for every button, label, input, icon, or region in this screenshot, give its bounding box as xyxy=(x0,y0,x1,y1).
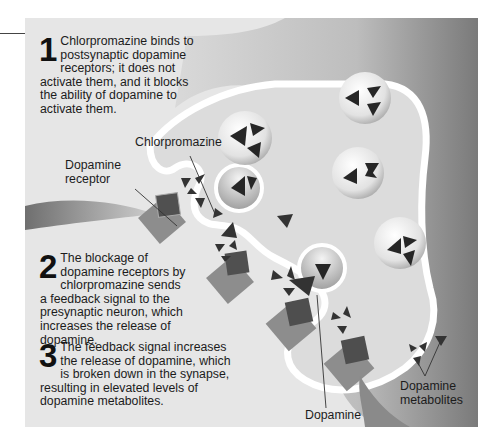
step-1: 1 Chlorpromazine binds to postsynaptic d… xyxy=(40,35,205,117)
diagram-panel: 1 Chlorpromazine binds to postsynaptic d… xyxy=(25,18,478,427)
label-metabolites-line1: Dopamine xyxy=(400,380,463,394)
step-3-number: 3 xyxy=(39,343,57,369)
label-dopamine: Dopamine xyxy=(305,409,361,423)
step-2: 2 The blockage of dopamine receptors by … xyxy=(40,252,190,347)
label-dopamine-receptor-line2: receptor xyxy=(65,173,121,187)
label-chlorpromazine: Chlorpromazine xyxy=(135,136,222,150)
label-dopamine-receptor: Dopamine receptor xyxy=(65,159,121,186)
step-2-text: The blockage of dopamine receptors by ch… xyxy=(40,251,185,347)
step-2-number: 2 xyxy=(39,254,57,280)
label-dopamine-metabolites: Dopamine metabolites xyxy=(400,380,463,407)
label-metabolites-line2: metabolites xyxy=(400,394,463,408)
step-1-number: 1 xyxy=(39,37,57,63)
label-dopamine-receptor-line1: Dopamine xyxy=(65,159,121,173)
step-3: 3 The feedback signal increases the rele… xyxy=(40,341,240,409)
step-3-text: The feedback signal increases the releas… xyxy=(40,340,231,408)
step-1-text: Chlorpromazine binds to postsynaptic dop… xyxy=(40,34,194,116)
left-dendrite xyxy=(25,200,155,230)
